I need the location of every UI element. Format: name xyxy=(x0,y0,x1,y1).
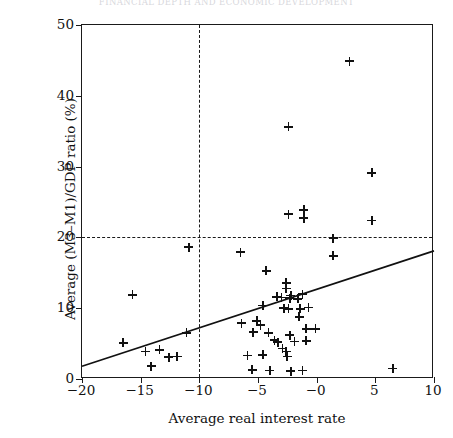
data-point xyxy=(298,366,307,375)
data-point xyxy=(284,304,293,313)
data-point xyxy=(265,366,274,375)
x-tick-label: −0 xyxy=(306,382,326,398)
data-point xyxy=(237,319,246,328)
data-point xyxy=(302,324,311,333)
data-point xyxy=(298,290,307,299)
data-point xyxy=(258,350,267,359)
data-point xyxy=(262,266,271,275)
y-tick-label: 10 xyxy=(48,299,74,315)
y-tick-label: 40 xyxy=(48,87,74,103)
y-tick-label: 0 xyxy=(48,370,74,386)
data-point xyxy=(119,338,128,347)
data-point xyxy=(329,251,338,260)
data-point xyxy=(304,303,313,312)
data-point xyxy=(258,301,267,310)
y-tick-label: 50 xyxy=(48,16,74,32)
data-point xyxy=(286,367,295,376)
running-title: FINANCIAL DEPTH AND ECONOMIC DEVELOPMENT xyxy=(0,0,453,6)
data-point xyxy=(283,352,292,361)
data-point xyxy=(236,248,245,257)
data-point xyxy=(290,337,299,346)
y-tick xyxy=(76,379,82,380)
data-point xyxy=(299,214,308,223)
figure-container: FINANCIAL DEPTH AND ECONOMIC DEVELOPMENT… xyxy=(0,0,453,438)
data-point xyxy=(284,122,293,131)
data-point xyxy=(128,290,137,299)
data-point xyxy=(311,324,320,333)
data-point xyxy=(302,336,311,345)
reference-line-vertical xyxy=(199,25,200,377)
data-point xyxy=(345,57,354,66)
data-point xyxy=(184,243,193,252)
x-axis-title: Average real interest rate xyxy=(81,410,433,426)
x-tick-label: 10 xyxy=(424,382,441,398)
x-tick-label: −5 xyxy=(247,382,267,398)
data-point xyxy=(248,365,257,374)
y-tick-label: 30 xyxy=(48,158,74,174)
x-tick-label: −15 xyxy=(125,382,154,398)
data-point xyxy=(173,352,182,361)
data-point xyxy=(295,312,304,321)
data-point xyxy=(388,364,397,373)
y-tick-label: 20 xyxy=(48,228,74,244)
data-point xyxy=(182,328,191,337)
x-tick-label: 5 xyxy=(370,382,379,398)
data-point xyxy=(284,210,293,219)
data-point xyxy=(155,345,164,354)
x-tick-label: −10 xyxy=(184,382,213,398)
data-point xyxy=(147,362,156,371)
data-point xyxy=(141,347,150,356)
data-point xyxy=(367,168,376,177)
data-point xyxy=(329,234,338,243)
plot-area xyxy=(81,24,433,378)
data-point xyxy=(249,328,258,337)
y-tick xyxy=(76,25,82,26)
data-point xyxy=(243,351,252,360)
data-point xyxy=(367,216,376,225)
reference-line-horizontal xyxy=(82,237,432,238)
